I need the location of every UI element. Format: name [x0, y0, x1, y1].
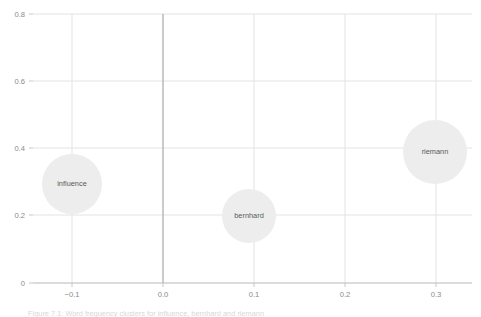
x-axis-ticks	[72, 283, 436, 287]
xtick-label-0.0: 0.0	[158, 290, 169, 299]
xtick-label-0.2: 0.2	[340, 290, 351, 299]
data-point-riemann[interactable]: riemann	[403, 120, 467, 184]
x-axis-tick-labels: −0.1 0.0 0.1 0.2 0.3	[65, 290, 442, 299]
bubble-label-bernhard: bernhard	[234, 211, 264, 220]
ytick-label-0: 0	[21, 279, 25, 288]
xtick-label--0.1: −0.1	[65, 290, 80, 299]
data-point-bernhard[interactable]: bernhard	[222, 189, 276, 243]
y-axis-ticks	[29, 14, 33, 283]
ytick-label-0.8: 0.8	[14, 10, 25, 19]
figure-caption: Figure 7.1: Word frequency clusters for …	[28, 308, 264, 317]
ytick-label-0.4: 0.4	[14, 144, 25, 153]
xtick-label-0.1: 0.1	[249, 290, 260, 299]
ytick-label-0.2: 0.2	[14, 211, 25, 220]
bubble-label-riemann: riemann	[422, 147, 449, 156]
bubble-label-influence: influence	[57, 179, 87, 188]
ytick-label-0.6: 0.6	[14, 77, 25, 86]
xtick-label-0.3: 0.3	[431, 290, 442, 299]
y-axis-tick-labels: 0.8 0.6 0.4 0.2 0	[14, 10, 25, 288]
data-point-influence[interactable]: influence	[42, 154, 102, 214]
